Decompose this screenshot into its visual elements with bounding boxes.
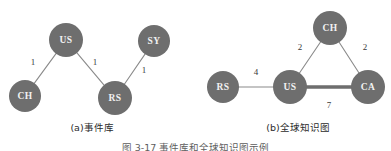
edge-weight-b-RS-US: 4 [254, 67, 259, 77]
graph-node-b-RS[interactable]: RS [207, 71, 239, 103]
edge-weight-a-US-RS: 1 [93, 57, 98, 67]
edge-weights-layer: 1114227 [31, 42, 368, 110]
node-label-b-RS: RS [217, 82, 230, 92]
edges-layer [34, 41, 359, 87]
graph-node-a-CH[interactable]: CH [9, 80, 41, 112]
graph-edge-b-CH-CA [339, 41, 360, 73]
graph-node-a-RS[interactable]: RS [98, 81, 132, 115]
edge-weight-a-US-CH: 1 [31, 57, 36, 67]
node-label-a-CH: CH [17, 91, 32, 101]
graph-edge-b-US-CH [299, 41, 321, 74]
edge-weight-b-CH-CA: 2 [363, 42, 368, 52]
edge-weight-b-US-CA: 7 [327, 100, 332, 110]
graph-node-b-US[interactable]: US [273, 70, 307, 104]
node-label-a-US: US [60, 35, 73, 45]
graph-node-a-SY[interactable]: SY [138, 25, 170, 57]
node-label-b-US: US [284, 82, 297, 92]
panel-b-subcaption: (b)全球知识图 [205, 120, 391, 134]
node-label-a-RS: RS [109, 93, 122, 103]
graph-node-b-CH[interactable]: CH [313, 11, 347, 45]
graph-node-a-US[interactable]: US [49, 23, 83, 57]
graph-edge-a-US-RS [76, 52, 104, 86]
graph-node-b-CA[interactable]: CA [351, 70, 385, 104]
node-label-b-CA: CA [361, 82, 376, 92]
node-label-a-SY: SY [148, 36, 161, 46]
edge-weight-a-SY-RS: 1 [142, 65, 147, 75]
node-label-b-CH: CH [322, 23, 337, 33]
panel-a-subcaption: (a)事件库 [0, 120, 184, 134]
edge-weight-b-US-CH: 2 [298, 42, 303, 52]
figure-caption: 图 3-17 事件库和全球知识图示例 [0, 142, 391, 151]
figure-container: USSYCHRSCHRSUSCA 1114227 (a)事件库 (b)全球知识图… [0, 0, 391, 151]
graph-edge-a-US-CH [34, 53, 57, 84]
